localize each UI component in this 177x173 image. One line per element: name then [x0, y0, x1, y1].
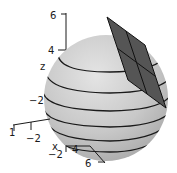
z-tick-6: 6 [50, 10, 56, 21]
sphere [43, 35, 170, 161]
sphere-tangent-plane-figure: 6 4 z −2 1 −2 x −2 4 6 [0, 0, 177, 173]
x-tick-4: 4 [72, 144, 78, 155]
x-tick-neg2: −2 [48, 149, 63, 160]
z-axis [58, 13, 66, 50]
y-tick-neg2: −2 [26, 133, 41, 144]
z-tick-neg2: −2 [29, 95, 44, 106]
y-tick-1: 1 [9, 127, 15, 138]
y-axis [13, 119, 50, 131]
z-tick-4: 4 [48, 45, 54, 56]
x-tick-6: 6 [85, 158, 91, 169]
z-axis-label: z [40, 61, 45, 72]
